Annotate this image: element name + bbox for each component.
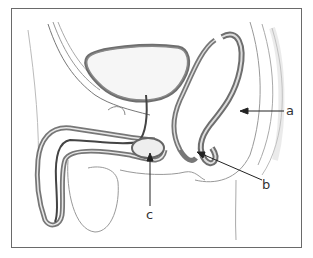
label-a: a (286, 104, 294, 117)
anatomy-illustration (0, 0, 313, 258)
label-c: c (146, 208, 153, 221)
label-b: b (262, 178, 270, 191)
